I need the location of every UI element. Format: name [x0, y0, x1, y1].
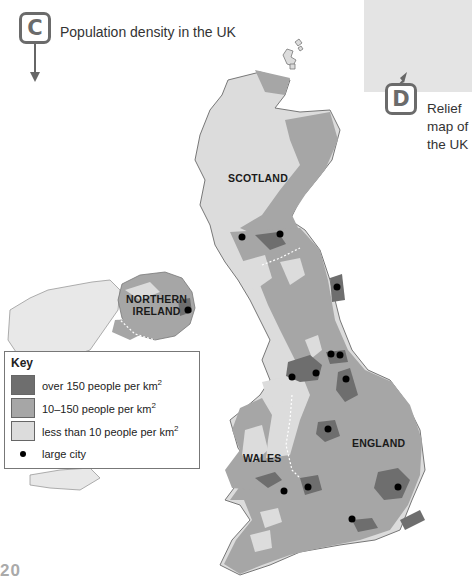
label-northern-ireland-line1: NORTHERN: [126, 293, 187, 305]
swatch-low-density: [11, 421, 35, 441]
key-item-medium: 10–150 people per km2: [11, 396, 193, 419]
figure-d-badge: D: [385, 83, 417, 115]
map-key: Key over 150 people per km2 10–150 peopl…: [4, 351, 200, 469]
figure-c-title: Population density in the UK: [60, 24, 236, 40]
key-title: Key: [11, 356, 193, 370]
key-item-city: large city: [11, 442, 193, 465]
key-label-city: large city: [42, 448, 86, 460]
arrow-down-icon: [30, 43, 40, 82]
label-northern-ireland: NORTHERN IRELAND: [126, 293, 187, 317]
label-wales: WALES: [243, 452, 281, 464]
page-number: 20: [0, 561, 21, 581]
key-label-medium: 10–150 people per km2: [42, 401, 156, 415]
label-scotland: SCOTLAND: [228, 172, 288, 184]
figure-d-title: Relief map of the UK: [427, 100, 472, 154]
key-label-high: over 150 people per km2: [42, 378, 162, 392]
label-england: ENGLAND: [352, 437, 405, 449]
key-label-low: less than 10 people per km2: [42, 424, 179, 438]
label-northern-ireland-line2: IRELAND: [126, 305, 187, 317]
key-item-high: over 150 people per km2: [11, 373, 193, 396]
key-item-low: less than 10 people per km2: [11, 419, 193, 442]
swatch-medium-density: [11, 398, 35, 418]
city-dot-icon: [11, 451, 35, 457]
figure-c-badge: C: [19, 12, 51, 44]
swatch-high-density: [11, 375, 35, 395]
